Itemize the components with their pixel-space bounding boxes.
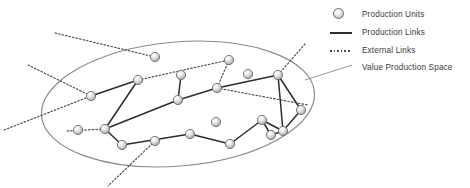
external-link-6 xyxy=(217,88,308,105)
figure-root: Production Units Production Links Extern… xyxy=(0,0,470,188)
production-unit-node xyxy=(211,117,220,126)
production-unit-node xyxy=(117,140,126,149)
node-sphere-n6 xyxy=(117,140,126,149)
solid-line-icon xyxy=(327,25,355,41)
node-sphere-n4 xyxy=(100,124,109,133)
node-sphere-n10 xyxy=(224,55,233,64)
legend-label-production-units: Production Units xyxy=(362,8,424,21)
production-unit-node xyxy=(150,136,159,145)
production-units-layer xyxy=(73,52,305,149)
node-sphere-n12 xyxy=(211,117,220,126)
production-link-9 xyxy=(230,120,262,144)
sphere-node-icon xyxy=(327,7,355,23)
production-unit-node xyxy=(224,55,233,64)
external-link-3 xyxy=(67,129,105,131)
production-unit-node xyxy=(257,115,266,124)
production-unit-node xyxy=(296,105,305,114)
node-sphere-n17 xyxy=(273,70,282,79)
production-unit-node xyxy=(176,70,185,79)
production-unit-node xyxy=(185,129,194,138)
legend-label-external-links: External Links xyxy=(362,44,416,57)
production-unit-node xyxy=(273,70,282,79)
production-unit-node xyxy=(133,75,142,84)
dotted-line-icon xyxy=(327,43,355,59)
legend-label-production-links: Production Links xyxy=(362,26,425,39)
node-sphere-n19 xyxy=(278,126,287,135)
production-link-14 xyxy=(278,75,301,110)
legend-item-external-links: External Links xyxy=(327,43,470,59)
legend-item-production-units: Production Units xyxy=(327,7,470,23)
external-link-2 xyxy=(4,96,91,130)
node-sphere-n15 xyxy=(257,115,266,124)
node-sphere-n1 xyxy=(150,52,159,61)
production-unit-node xyxy=(86,91,95,100)
node-sphere-n11 xyxy=(212,83,221,92)
production-unit-node xyxy=(73,125,82,134)
production-unit-node xyxy=(225,139,234,148)
node-sphere-n20 xyxy=(150,136,159,145)
node-sphere-n16 xyxy=(266,130,275,139)
node-sphere-n7 xyxy=(176,70,185,79)
external-link-0 xyxy=(55,33,155,57)
production-unit-node xyxy=(100,124,109,133)
legend-label-value-production-space: Value Production Space xyxy=(362,61,453,74)
production-unit-node xyxy=(266,130,275,139)
node-sphere-n3 xyxy=(133,75,142,84)
node-sphere-n18 xyxy=(296,105,305,114)
production-unit-node xyxy=(212,83,221,92)
production-link-0 xyxy=(91,80,138,96)
node-sphere-n13 xyxy=(243,69,252,78)
production-link-3 xyxy=(105,100,178,129)
legend-item-production-links: Production Links xyxy=(327,25,470,41)
production-link-13 xyxy=(278,75,283,131)
node-sphere-n2 xyxy=(86,91,95,100)
production-unit-node xyxy=(173,95,182,104)
production-link-8 xyxy=(190,134,230,144)
production-unit-node xyxy=(243,69,252,78)
production-link-5 xyxy=(178,88,217,100)
production-unit-node xyxy=(150,52,159,61)
node-sphere-n8 xyxy=(173,95,182,104)
legend-item-value-production-space: Value Production Space xyxy=(327,60,470,76)
production-unit-node xyxy=(278,126,287,135)
node-sphere-n9 xyxy=(185,129,194,138)
node-sphere-n14 xyxy=(225,139,234,148)
legend: Production Units Production Links Extern… xyxy=(327,4,470,78)
external-link-7 xyxy=(278,44,305,75)
node-sphere-n5 xyxy=(73,125,82,134)
